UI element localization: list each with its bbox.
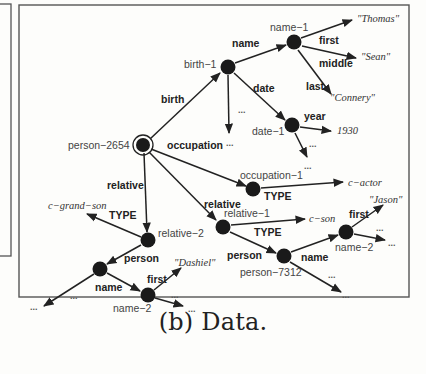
edge-label-last: last <box>306 80 325 92</box>
edge-name-right <box>291 235 338 252</box>
edge-birth-more <box>228 75 229 133</box>
value-ellipsis: ... <box>304 161 312 171</box>
node-relative-2 <box>141 233 156 248</box>
edge-label-date: date <box>253 82 275 94</box>
edge-type-relative-1 <box>231 219 305 225</box>
edge-label-ellipsis: ... <box>328 270 336 280</box>
figure-caption: (b) Data. <box>0 308 426 336</box>
edge-label-ellipsis: ... <box>238 105 246 115</box>
value-thomas: "Thomas" <box>357 13 400 24</box>
edge-label-first-right: first <box>349 208 369 220</box>
edge-type-occupation <box>261 182 343 188</box>
node-name-1 <box>287 35 302 50</box>
edge-label-ellipsis: ... <box>376 223 384 233</box>
edge-label-relative-left: relative <box>107 179 144 191</box>
node-occupation-1 <box>246 182 261 197</box>
edge-label-ellipsis: ... <box>171 290 179 300</box>
edge-person-left-more <box>44 274 94 306</box>
label-occupation-1: occupation−1 <box>240 169 303 181</box>
figure: person−2654 birth−1 name−1 date−1 occupa… <box>0 0 426 374</box>
label-name-1: name−1 <box>270 21 308 33</box>
edge-label-ellipsis: ... <box>309 139 317 149</box>
label-relative-2: relative−2 <box>158 227 204 239</box>
node-person-left <box>93 262 108 277</box>
value-1930: 1930 <box>337 125 359 136</box>
value-sean: "Sean" <box>361 51 391 62</box>
value-connery: "Connery" <box>330 92 376 103</box>
label-person-7312: person−7312 <box>240 266 302 278</box>
node-person-2654 <box>136 138 150 152</box>
edge-label-middle: middle <box>319 57 353 69</box>
edge-label-ellipsis: ... <box>70 291 78 301</box>
edge-label-type-occupation: TYPE <box>264 190 291 202</box>
edge-label-person-left: person <box>124 252 159 264</box>
edge-year <box>300 127 331 131</box>
edge-birth <box>150 73 220 139</box>
label-birth-1: birth−1 <box>184 58 217 70</box>
value-c-son: c−son <box>309 213 335 224</box>
edge-name-left-more <box>155 298 183 306</box>
value-ellipsis: ... <box>226 138 234 148</box>
edge-label-occupation: occupation <box>167 139 223 151</box>
value-c-grand-son: c−grand−son <box>48 200 107 211</box>
value-dashiel: "Dashiel" <box>174 257 216 268</box>
edge-label-birth: birth <box>161 93 184 105</box>
label-person-2654: person−2654 <box>68 139 130 151</box>
panel-frame <box>19 5 409 297</box>
label-date-1: date−1 <box>252 125 285 137</box>
node-date-1 <box>285 118 300 133</box>
value-ellipsis: ... <box>342 290 350 300</box>
edge-label-person-right: person <box>227 249 262 261</box>
node-name-2-right <box>339 225 354 240</box>
edge-date-more <box>295 133 307 157</box>
edge-label-name-right: name <box>301 251 329 263</box>
label-name-2-right: name−2 <box>335 241 373 253</box>
adjacent-panel-frame <box>0 4 11 256</box>
edge-label-first: first <box>319 34 339 46</box>
edge-label-name: name <box>232 37 260 49</box>
edge-label-relative-right: relative <box>204 198 241 210</box>
edge-label-year: year <box>304 110 326 122</box>
node-relative-1 <box>216 220 231 235</box>
value-ellipsis: ... <box>388 238 396 248</box>
node-birth-1 <box>221 60 236 75</box>
edge-label-type-relative-1: TYPE <box>254 226 281 238</box>
edge-name-right-more <box>354 234 385 240</box>
edge-label-first-left: first <box>147 273 167 285</box>
node-name-2-left <box>141 288 156 303</box>
value-c-actor: c−actor <box>348 177 383 188</box>
edge-relative-2 <box>144 153 147 232</box>
edge-label-name-left: name <box>95 281 123 293</box>
node-person-7312 <box>277 249 292 264</box>
edge-label-type-relative-2: TYPE <box>109 209 136 221</box>
value-jason: "Jason" <box>369 194 403 205</box>
